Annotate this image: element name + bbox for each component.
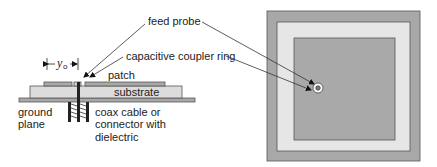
coupler-ring-label: capacitive coupler ring xyxy=(126,50,235,62)
cross-section-view: y o patch substrate ground plane coax ca… xyxy=(18,24,195,143)
ground-plane-layer xyxy=(19,98,195,102)
microstrip-patch-antenna-diagram: y o patch substrate ground plane coax ca… xyxy=(0,0,437,167)
top-view xyxy=(202,11,420,161)
coax-label-line2: connector with xyxy=(95,118,166,130)
ground-plane-label-line2: plane xyxy=(18,118,45,130)
dim-label-subscript: o xyxy=(63,62,68,71)
feed-probe-top xyxy=(316,86,321,91)
feed-probe-pin xyxy=(77,82,80,122)
patch-left-segment xyxy=(44,82,72,86)
coax-label-line1: coax cable or xyxy=(95,106,161,118)
patch-label: patch xyxy=(108,69,135,81)
ground-plane-label-line1: ground xyxy=(18,106,52,118)
coax-label-line3: dielectric xyxy=(95,131,139,143)
y0-dimension: y o xyxy=(47,56,78,71)
dim-label-y: y xyxy=(56,56,63,70)
feed-probe-label: feed probe xyxy=(148,15,201,27)
substrate-label: substrate xyxy=(114,86,159,98)
